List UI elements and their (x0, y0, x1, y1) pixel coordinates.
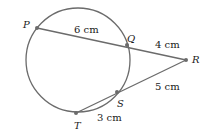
length-RS: 5 cm (155, 81, 180, 92)
point-P (35, 26, 39, 30)
length-PQ: 6 cm (74, 24, 99, 35)
label-Q: Q (127, 33, 135, 44)
secant-diagram: P Q R S T 6 cm 4 cm 5 cm 3 cm (0, 0, 210, 136)
label-P: P (22, 19, 30, 30)
length-QR: 4 cm (155, 39, 180, 50)
point-T (74, 111, 78, 115)
label-R: R (191, 54, 200, 65)
label-T: T (74, 120, 82, 131)
point-S (115, 90, 119, 94)
label-S: S (117, 98, 124, 109)
point-R (184, 58, 188, 62)
length-ST: 3 cm (97, 112, 122, 123)
